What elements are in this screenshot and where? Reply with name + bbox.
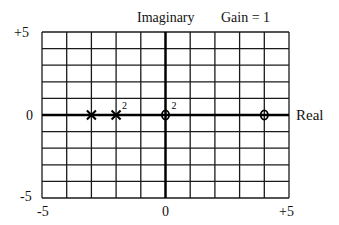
y-tick-top: +5 xyxy=(14,26,29,40)
x-tick-zero: 0 xyxy=(162,205,169,219)
pole-zero-plot: 22 xyxy=(0,0,339,225)
chart-title: Imaginary xyxy=(137,11,195,25)
x-tick-right: +5 xyxy=(279,205,294,219)
multiplicity-label: 2 xyxy=(122,100,127,111)
axes xyxy=(42,32,289,198)
gain-label: Gain = 1 xyxy=(221,11,270,25)
markers: 22 xyxy=(87,100,268,120)
y-tick-zero: 0 xyxy=(26,109,33,123)
x-tick-left: -5 xyxy=(37,205,49,219)
multiplicity-label: 2 xyxy=(172,100,177,111)
real-axis-label: Real xyxy=(296,108,324,122)
y-tick-bottom: -5 xyxy=(20,190,32,204)
